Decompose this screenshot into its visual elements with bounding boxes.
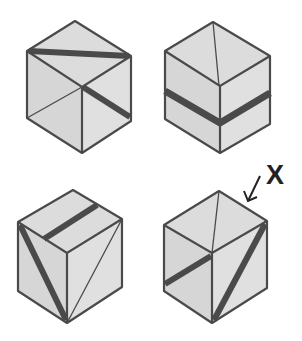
cube-2	[165, 22, 270, 153]
cube-4	[164, 191, 267, 323]
marker-label-x: X	[266, 162, 284, 189]
arrow-icon	[244, 176, 260, 201]
cube-1	[27, 21, 131, 153]
cube-diagram	[0, 0, 302, 341]
cube-3	[18, 190, 122, 323]
